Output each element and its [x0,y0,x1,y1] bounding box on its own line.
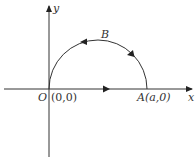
arc-arrow-left [80,39,87,46]
arc-arrow-right [127,50,135,57]
semicircle-contour-diagram: y x B O (0,0) A (a,0) [0,0,196,168]
point-b-label: B [100,28,109,41]
segment-arrow [103,86,110,93]
origin-label: O [38,91,47,104]
semicircle-arc [49,40,147,89]
origin-coords: (0,0) [51,91,77,104]
point-a-label: A [136,91,145,104]
point-a-coords: (a,0) [145,91,171,104]
diagram: y x B O (0,0) A (a,0) [0,0,196,168]
x-axis-label: x [188,91,195,104]
y-axis-label: y [52,2,60,15]
